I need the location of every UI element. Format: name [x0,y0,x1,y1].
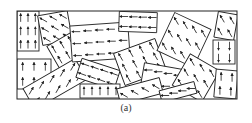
grain [119,11,158,32]
domain-arrow-icon [148,17,156,18]
grain [214,11,238,40]
grain [213,40,235,64]
domain-arrow-icon [139,17,147,18]
domain-arrow-icon [148,27,156,28]
domain-arrow-icon [129,27,137,28]
domain-arrow-icon [138,27,146,28]
domain-arrow-icon [119,26,127,27]
domain-arrow-icon [120,16,128,17]
grain [17,11,39,51]
grain [157,13,211,68]
domain-arrow-icon [129,17,137,18]
grain [80,84,120,98]
grain-layer [17,11,238,110]
grain [214,69,238,99]
figure-caption: (a) [0,102,252,113]
